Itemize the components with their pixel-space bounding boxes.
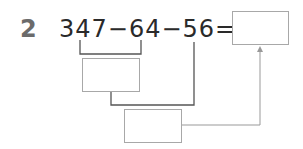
connector-lines xyxy=(0,0,303,149)
bracket-347-64 xyxy=(80,40,141,54)
arrowhead-icon xyxy=(257,46,263,52)
connector-step1-to-56 xyxy=(111,42,194,105)
